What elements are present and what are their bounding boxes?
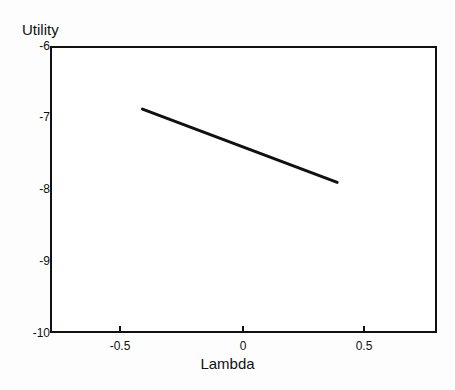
y-tick-label-0: -6 xyxy=(6,40,50,52)
x-axis-title: Lambda xyxy=(0,356,455,371)
chart-figure: Utility -6 -7 -8 -9 -10 -0.5 0 0.5 Lambd… xyxy=(0,0,455,390)
y-tick-label-2: -8 xyxy=(6,183,50,195)
x-tick-label-2: 0.5 xyxy=(334,340,394,352)
y-tick-label-4: -10 xyxy=(6,327,50,339)
x-tick-mark-2 xyxy=(363,326,365,333)
x-tick-mark-1 xyxy=(242,326,244,333)
x-tick-mark-0 xyxy=(119,326,121,333)
y-tick-label-1: -7 xyxy=(6,111,50,123)
plot-area xyxy=(50,46,437,333)
x-tick-label-1: 0 xyxy=(213,340,273,352)
plot-inner xyxy=(52,48,435,331)
x-tick-label-0: -0.5 xyxy=(90,340,150,352)
y-tick-label-3: -9 xyxy=(6,255,50,267)
y-axis-title: Utility xyxy=(22,22,59,37)
